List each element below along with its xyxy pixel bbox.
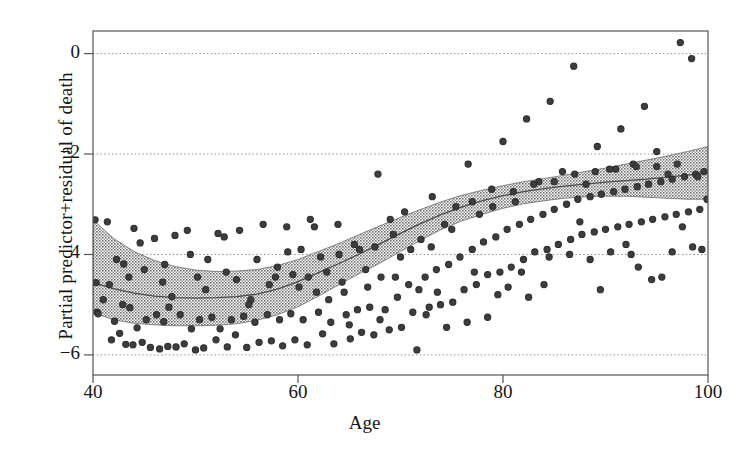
axis-ticks (84, 54, 708, 383)
chart-figure: Partial predictor+residual of death Age … (0, 0, 729, 457)
plot-canvas (0, 0, 729, 457)
